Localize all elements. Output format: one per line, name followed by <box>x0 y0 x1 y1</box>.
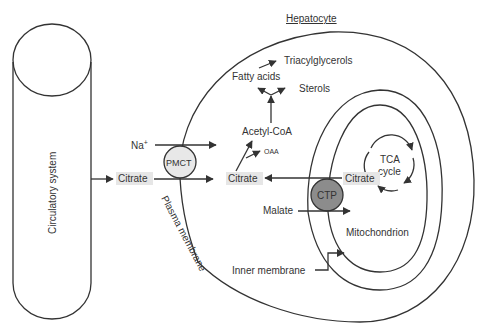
vessel-label: Circulatory system <box>47 152 58 234</box>
oaa-label: OAA <box>264 148 279 155</box>
plasma-membrane-label: Plasma membrane <box>159 194 208 274</box>
arrow-inner-membrane-pointer <box>315 253 344 270</box>
mitochondrion-inner-membrane <box>328 105 427 272</box>
tca-arrow-bottom <box>378 186 398 191</box>
fatty-acids-label: Fatty acids <box>232 71 280 82</box>
sodium-label: Na+ <box>131 139 148 151</box>
citrate-mito-label: Citrate <box>345 173 375 184</box>
arrow-to-fatty-acids <box>258 88 271 95</box>
tca-arrow-top <box>371 135 412 150</box>
tca-label-line1: TCA <box>380 154 400 165</box>
sterols-label: Sterols <box>299 83 330 94</box>
mitochondrion-label: Mitochondrion <box>346 227 409 238</box>
malate-label: Malate <box>263 205 293 216</box>
arrow-to-sterols <box>271 88 285 95</box>
hepatocyte-title: Hepatocyte <box>286 13 337 24</box>
triacylglycerols-label: Triacylglycerols <box>284 55 353 66</box>
pmct-label: PMCT <box>166 158 192 168</box>
tca-arrow-right <box>404 158 414 183</box>
citrate-cyto-label: Citrate <box>228 173 258 184</box>
ctp-label: CTP <box>317 190 337 201</box>
citrate-transport-diagram: Circulatory system Hepatocyte Plasma mem… <box>0 0 480 329</box>
tca-label-line2: cycle <box>378 166 401 177</box>
vessel-top-ellipse <box>13 24 91 96</box>
arrow-to-oaa <box>246 151 260 158</box>
inner-membrane-label: Inner membrane <box>232 265 306 276</box>
citrate-blood-label: Citrate <box>118 173 148 184</box>
plasma-membrane <box>180 32 474 322</box>
arrow-to-triacylglycerols <box>259 61 276 68</box>
circulatory-vessel: Circulatory system <box>13 24 91 319</box>
acetyl-coa-label: Acetyl-CoA <box>242 126 292 137</box>
